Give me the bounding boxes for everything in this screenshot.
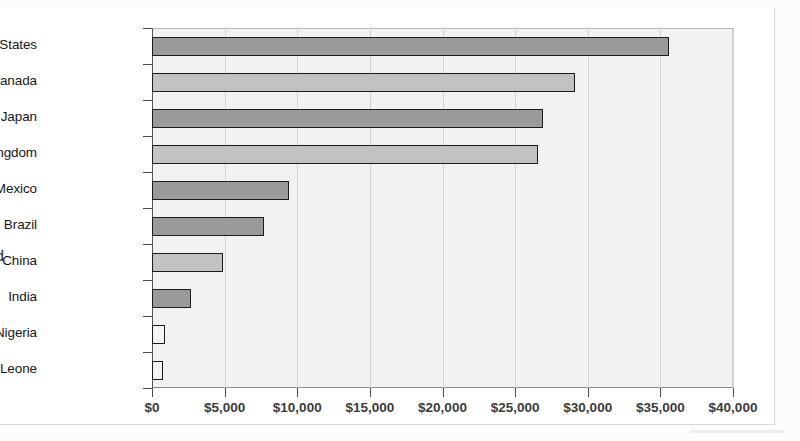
x-axis-label: $0 [144, 400, 159, 415]
category-label: Mexico [0, 181, 37, 196]
x-axis-tick [588, 388, 589, 397]
gridline [660, 28, 661, 388]
page-edge-artifact [690, 430, 785, 433]
category-label: India [8, 289, 37, 304]
y-axis-tick [143, 244, 152, 245]
x-axis-label: $40,000 [709, 400, 758, 415]
bar-row [152, 172, 289, 208]
bar[interactable] [152, 145, 538, 164]
y-axis-tick [143, 316, 152, 317]
x-axis-tick [733, 388, 734, 397]
x-axis-tick [225, 388, 226, 397]
category-label: Canada [0, 73, 37, 88]
bar[interactable] [152, 361, 163, 380]
bar-chart: d United StatesCanadaJapanUnited Kingdom… [0, 8, 775, 425]
category-label: Japan [1, 109, 37, 124]
category-label: Sierra Leone [0, 361, 37, 376]
bar-row [152, 136, 538, 172]
y-axis-tick [143, 64, 152, 65]
y-axis-tick [143, 28, 152, 29]
bar[interactable] [152, 289, 191, 308]
x-axis-label: $35,000 [636, 400, 685, 415]
x-axis-tick [515, 388, 516, 397]
category-label: United Kingdom [0, 145, 37, 160]
figure-frame: d United StatesCanadaJapanUnited Kingdom… [0, 8, 775, 425]
x-axis-tick [370, 388, 371, 397]
x-axis-label: $15,000 [345, 400, 394, 415]
x-axis-tick [152, 388, 153, 397]
x-axis-label: $25,000 [491, 400, 540, 415]
y-axis-tick [143, 388, 152, 389]
bar-row [152, 316, 165, 352]
category-label: Nigeria [0, 325, 37, 340]
x-axis-label: $30,000 [563, 400, 612, 415]
bar-row [152, 280, 191, 316]
bar[interactable] [152, 37, 669, 56]
x-axis-tick [297, 388, 298, 397]
x-axis-tick [660, 388, 661, 397]
y-axis-tick [143, 100, 152, 101]
x-axis-label: $20,000 [418, 400, 467, 415]
page-canvas: d United StatesCanadaJapanUnited Kingdom… [0, 0, 800, 441]
bar-row [152, 28, 669, 64]
y-axis-tick [143, 208, 152, 209]
bar-row [152, 64, 575, 100]
y-axis-tick [143, 352, 152, 353]
bar-row [152, 244, 223, 280]
category-label: Brazil [4, 217, 37, 232]
x-axis-label: $10,000 [273, 400, 322, 415]
gridline [588, 28, 589, 388]
bar[interactable] [152, 253, 223, 272]
x-axis-label: $5,000 [204, 400, 245, 415]
bar[interactable] [152, 325, 165, 344]
bar[interactable] [152, 109, 543, 128]
bar[interactable] [152, 217, 264, 236]
y-axis-tick [143, 280, 152, 281]
bar-row [152, 208, 264, 244]
bar[interactable] [152, 181, 289, 200]
category-label: United States [0, 37, 37, 52]
x-axis-tick [443, 388, 444, 397]
gridline [733, 28, 734, 388]
bar[interactable] [152, 73, 575, 92]
bar-row [152, 100, 543, 136]
category-label: China [2, 253, 37, 268]
bar-row [152, 352, 163, 388]
y-axis-tick [143, 172, 152, 173]
y-axis-tick [143, 136, 152, 137]
